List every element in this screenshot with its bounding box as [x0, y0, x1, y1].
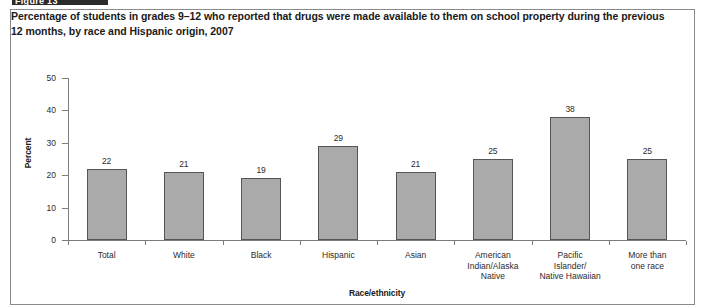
y-axis-tick-label: 30: [22, 139, 56, 148]
bar-value-label: 22: [77, 157, 137, 166]
x-axis-tick: [686, 241, 687, 245]
x-axis-tick: [377, 241, 378, 245]
bar: [396, 172, 436, 240]
x-axis-category-label: More than one race: [602, 250, 692, 271]
x-axis-tick: [609, 241, 610, 245]
bar-value-label: 25: [463, 147, 523, 156]
x-axis-tick: [68, 241, 69, 245]
bar-value-label: 38: [540, 105, 600, 114]
bar-value-label: 29: [308, 134, 368, 143]
y-axis-tick: [62, 175, 69, 176]
y-axis-tick-label: 50: [22, 74, 56, 83]
y-axis-line: [68, 78, 69, 241]
y-axis-tick-label: 40: [22, 106, 56, 115]
bar: [241, 178, 281, 240]
bar: [164, 172, 204, 240]
bar-value-label: 21: [386, 160, 446, 169]
x-axis-title: Race/ethnicity: [68, 288, 686, 298]
y-axis-tick: [62, 208, 69, 209]
y-axis-tick-label: 20: [22, 171, 56, 180]
bar-value-label: 25: [617, 147, 677, 156]
bar: [550, 117, 590, 240]
x-axis-tick: [145, 241, 146, 245]
bar: [318, 146, 358, 240]
y-axis-tick: [62, 78, 69, 79]
bar: [87, 169, 127, 240]
bar-chart: Percent Race/ethnicity 01020304050 22Tot…: [0, 0, 707, 306]
x-axis-tick: [223, 241, 224, 245]
bar-value-label: 21: [154, 160, 214, 169]
x-axis-tick: [532, 241, 533, 245]
y-axis-tick: [62, 143, 69, 144]
x-axis-tick: [300, 241, 301, 245]
y-axis-tick-label: 10: [22, 204, 56, 213]
y-axis-tick: [62, 110, 69, 111]
x-axis-tick: [454, 241, 455, 245]
bar-value-label: 19: [231, 166, 291, 175]
y-axis-tick-label: 0: [22, 236, 56, 245]
bar: [627, 159, 667, 240]
bar: [473, 159, 513, 240]
